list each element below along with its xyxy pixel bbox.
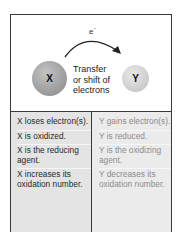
x-cell: X increases its oxidation number.	[17, 169, 91, 192]
caption-line: electrons	[73, 85, 110, 96]
x-cell: X is oxidized.	[17, 131, 91, 146]
y-cell: Y is reduced.	[99, 131, 171, 146]
transfer-caption: Transfer or shift of electrons	[73, 64, 110, 96]
atom-y-label: Y	[132, 73, 139, 84]
y-cell: Y decreases its oxidation number.	[99, 169, 171, 192]
x-cell: X loses electron(s).	[17, 116, 91, 131]
y-cell: Y gains electron(s).	[99, 116, 171, 131]
comparison-table: X loses electron(s). X is oxidized. X is…	[11, 111, 171, 232]
caption-line: Transfer	[73, 64, 110, 75]
electron-charge: −	[93, 25, 96, 31]
atom-y: Y	[122, 65, 149, 92]
x-column: X loses electron(s). X is oxidized. X is…	[11, 112, 92, 232]
electron-transfer-panel: e− X Transfer or shift of electrons Y	[11, 15, 171, 111]
curved-arrow-icon	[63, 35, 123, 59]
redox-diagram-frame: e− X Transfer or shift of electrons Y X …	[10, 14, 172, 232]
x-cell: X is the reducing agent.	[17, 145, 91, 169]
caption-line: or shift of	[73, 75, 110, 86]
atom-x: X	[32, 61, 67, 96]
y-column: Y gains electron(s). Y is reduced. Y is …	[92, 112, 171, 232]
atom-x-label: X	[46, 73, 53, 84]
y-cell: Y is the oxidizing agent.	[99, 145, 171, 169]
